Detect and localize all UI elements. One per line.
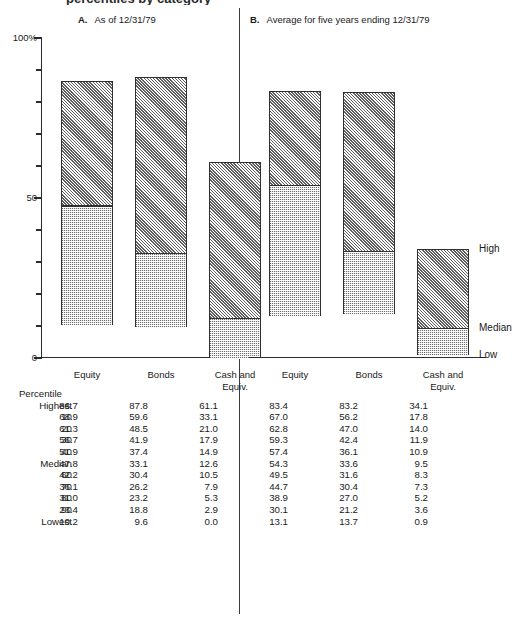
table-cell: 9.5	[382, 458, 428, 469]
y-axis-label-0: 0	[0, 352, 37, 363]
bar-segment-low	[270, 185, 320, 317]
table-cell: 44.7	[242, 481, 288, 492]
x-axis-category-label: Bonds	[327, 369, 411, 381]
bar-median-line	[344, 251, 394, 252]
table-cell: 83.4	[242, 400, 288, 411]
table-row: 4051.937.414.957.436.110.9	[0, 446, 486, 458]
table-cell: 3.6	[382, 504, 428, 515]
y-axis-tick-10	[36, 325, 42, 326]
table-cell: 5.3	[172, 492, 218, 503]
table-cell: 61.3	[32, 423, 78, 434]
table-cell: 37.4	[102, 446, 148, 457]
table-cell: 47.8	[32, 458, 78, 469]
table-cell: 33.6	[312, 458, 358, 469]
panel-b-title: Average for five years ending 12/31/79	[267, 14, 430, 25]
table-cell: 17.8	[382, 411, 428, 422]
range-bar-bonds[interactable]	[343, 92, 395, 314]
table-cell: 49.5	[242, 469, 288, 480]
table-cell: 33.1	[102, 458, 148, 469]
y-axis-label-50: 50	[0, 192, 37, 203]
table-cell: 67.0	[242, 411, 288, 422]
legend-label-high: High	[479, 243, 500, 254]
table-cell: 68.9	[32, 411, 78, 422]
chart-panel-b: EquityBondsCash and Equiv.HighMedianLow	[249, 30, 435, 365]
table-cell: 10.9	[382, 446, 428, 457]
y-axis-tick-20	[36, 293, 42, 294]
table-cell: 27.0	[312, 492, 358, 503]
y-axis-tick-70	[36, 133, 42, 134]
table-cell: 36.1	[32, 481, 78, 492]
bar-segment-low	[62, 206, 112, 326]
table-cell: 12.6	[172, 458, 218, 469]
table-cell: 38.9	[242, 492, 288, 503]
x-axis-category-label: Equity	[45, 369, 129, 381]
bar-segment-high	[418, 250, 468, 329]
table-cell: 42.2	[32, 469, 78, 480]
table-cell: 23.4	[32, 504, 78, 515]
table-cell: 7.3	[382, 481, 428, 492]
table-row: 3056.741.917.959.342.411.9	[0, 434, 486, 446]
table-cell: 33.1	[172, 411, 218, 422]
table-cell: 13.7	[312, 516, 358, 527]
table-row: 8031.023.25.338.927.05.2	[0, 492, 486, 504]
table-row: 9023.418.82.930.121.23.6	[0, 504, 486, 516]
range-bar-cash-and-equiv[interactable]	[417, 249, 469, 355]
bar-segment-low	[136, 253, 186, 328]
table-cell: 31.0	[32, 492, 78, 503]
table-cell: 13.1	[242, 516, 288, 527]
x-axis-category-label: Bonds	[119, 369, 203, 381]
table-cell: 7.9	[172, 481, 218, 492]
percentile-table: Percentile Highest86.787.861.183.483.234…	[0, 388, 486, 527]
table-row: 1068.959.633.167.056.217.8	[0, 411, 486, 423]
bar-segment-high	[136, 78, 186, 253]
table-cell: 86.7	[32, 400, 78, 411]
table-cell: 10.5	[172, 469, 218, 480]
bar-median-line	[270, 185, 320, 186]
table-cell: 30.1	[242, 504, 288, 515]
bar-segment-high	[270, 92, 320, 185]
chart-panel-a: 100%500EquityBondsCash and Equiv.	[41, 30, 227, 365]
table-cell: 54.3	[242, 458, 288, 469]
table-cell: 2.9	[172, 504, 218, 515]
table-cell: 21.2	[312, 504, 358, 515]
x-axis-category-label: Equity	[253, 369, 337, 381]
table-row: 6042.230.410.549.531.68.3	[0, 469, 486, 481]
table-cell: 17.9	[172, 434, 218, 445]
bar-segment-high	[62, 82, 112, 206]
bar-median-line	[62, 205, 112, 206]
table-cell: 23.2	[102, 492, 148, 503]
x-axis-line-a	[41, 357, 227, 358]
table-cell: 59.6	[102, 411, 148, 422]
table-cell: 83.2	[312, 400, 358, 411]
table-cell: 31.6	[312, 469, 358, 480]
table-cell: 14.9	[172, 446, 218, 457]
range-bar-bonds[interactable]	[135, 77, 187, 327]
table-row-header-label: Percentile	[0, 388, 62, 399]
table-header-row: Percentile	[0, 388, 486, 400]
table-cell: 41.9	[102, 434, 148, 445]
bar-median-line	[418, 328, 468, 329]
range-bar-equity[interactable]	[61, 81, 113, 326]
table-cell: 21.0	[172, 423, 218, 434]
table-cell: 18.8	[102, 504, 148, 515]
panel-b-heading: B.Average for five years ending 12/31/79	[250, 14, 430, 25]
range-bar-equity[interactable]	[269, 91, 321, 316]
table-cell: 56.7	[32, 434, 78, 445]
table-cell: 47.0	[312, 423, 358, 434]
table-cell: 14.0	[382, 423, 428, 434]
table-cell: 48.5	[102, 423, 148, 434]
panel-a-letter: A.	[78, 14, 88, 25]
y-axis-label-100: 100%	[0, 32, 37, 43]
table-row: 7036.126.27.944.730.47.3	[0, 481, 486, 493]
table-cell: 42.4	[312, 434, 358, 445]
y-axis-tick-30	[36, 261, 42, 262]
legend-label-median: Median	[479, 322, 512, 333]
legend-label-low: Low	[479, 349, 497, 360]
table-cell: 26.2	[102, 481, 148, 492]
table-cell: 36.1	[312, 446, 358, 457]
y-axis-tick-80	[36, 101, 42, 102]
panel-a-heading: A.As of 12/31/79	[78, 14, 156, 25]
table-cell: 51.9	[32, 446, 78, 457]
table-cell: 87.8	[102, 400, 148, 411]
panel-a-title: As of 12/31/79	[95, 14, 156, 25]
